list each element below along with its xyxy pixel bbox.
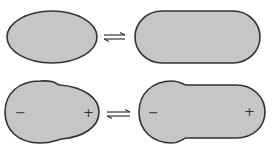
- minus-sign-bottom-right: −: [148, 105, 159, 120]
- diagram-canvas: − + − +: [0, 0, 273, 150]
- ellipse-shape-top-left: [7, 11, 97, 63]
- plus-sign-bottom-right: +: [244, 104, 255, 119]
- plus-sign-bottom-left: +: [83, 105, 94, 120]
- capsule-shape-top-right: [135, 11, 260, 63]
- equilibrium-arrows-top: [104, 33, 125, 42]
- equilibrium-arrows-bottom: [107, 110, 130, 119]
- minus-sign-bottom-left: −: [15, 105, 26, 120]
